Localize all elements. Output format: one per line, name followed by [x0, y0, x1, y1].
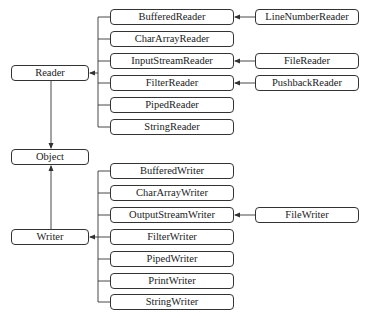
class-node-inputstreamreader: InputStreamReader	[110, 53, 234, 69]
class-node-stringwriter: StringWriter	[110, 294, 234, 310]
class-node-pipedwriter: PipedWriter	[110, 251, 234, 267]
class-node-filterwriter: FilterWriter	[110, 229, 234, 245]
class-node-linenumberreader: LineNumberReader	[255, 9, 359, 25]
class-node-bufferedreader: BufferedReader	[110, 9, 234, 25]
class-node-filereader: FileReader	[255, 53, 359, 69]
class-node-pushbackreader: PushbackReader	[255, 75, 359, 91]
class-node-reader: Reader	[11, 65, 89, 81]
class-node-chararrayreader: CharArrayReader	[110, 31, 234, 47]
class-node-filewriter: FileWriter	[255, 207, 359, 223]
class-node-pipedreader: PipedReader	[110, 97, 234, 113]
class-node-bufferedwriter: BufferedWriter	[110, 163, 234, 179]
class-node-writer: Writer	[11, 229, 89, 245]
class-node-outputstreamwriter: OutputStreamWriter	[110, 207, 234, 223]
class-node-printwriter: PrintWriter	[110, 273, 234, 289]
io-class-hierarchy-diagram: ReaderObjectWriterBufferedReaderCharArra…	[0, 0, 369, 319]
class-node-stringreader: StringReader	[110, 119, 234, 135]
class-node-filterreader: FilterReader	[110, 75, 234, 91]
class-node-chararraywriter: CharArrayWriter	[110, 185, 234, 201]
class-node-object: Object	[11, 149, 89, 165]
